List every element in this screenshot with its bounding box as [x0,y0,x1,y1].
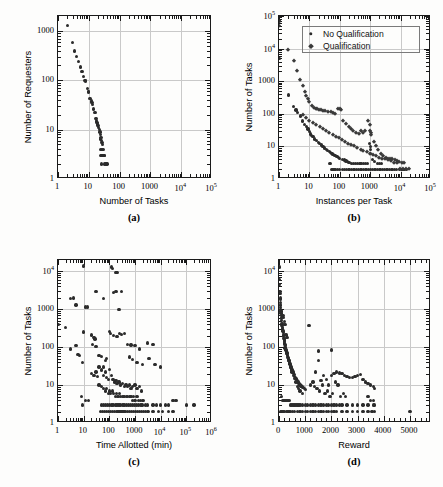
axis-tick [279,275,282,276]
axis-tick [426,405,429,406]
axis-tick [426,315,429,316]
axis-tick [421,260,422,263]
axis-tick [426,412,429,413]
axis-tick [347,418,348,421]
data-point [296,421,299,422]
data-point [307,324,310,327]
axis-tick [279,353,282,354]
axis-tick [289,260,290,263]
axis-tick [426,277,429,278]
data-point [351,403,354,406]
data-point [288,421,291,422]
axis-tick [373,260,374,263]
data-point [301,392,304,395]
axis-tick [426,329,429,330]
axis-tick [284,260,285,263]
data-point [280,421,283,422]
axis-tick [300,260,301,263]
data-point [282,316,285,319]
axis-tick [389,260,390,263]
data-point [336,383,339,386]
data-point [327,383,330,386]
axis-tick [426,389,429,390]
axis-tick [279,391,282,392]
data-point [288,399,291,402]
y-tick-label: 100 [262,341,275,351]
axis-tick [424,347,429,348]
axis-tick [331,260,332,263]
axis-tick [389,418,390,421]
axis-tick [326,260,327,263]
data-point [278,292,281,295]
data-point [278,278,281,281]
axis-tick [279,374,282,375]
axis-tick [426,273,429,274]
y-tick-label: 1 [271,417,275,427]
data-point [304,421,307,422]
axis-tick [415,260,416,263]
data-point [361,410,364,413]
data-point [317,359,320,362]
gridline-vertical [358,260,359,421]
x-axis-title-d: Reward [338,440,370,450]
axis-tick [426,394,429,395]
data-point [280,395,283,398]
axis-tick [279,416,280,421]
axis-tick [426,286,429,287]
data-point [351,410,354,413]
axis-tick [426,418,427,421]
data-point [351,421,354,422]
plot-area-d [278,259,430,422]
axis-tick [426,280,429,281]
data-point [339,395,342,398]
data-point [361,403,364,406]
data-point [326,389,329,392]
data-point [372,403,375,406]
axis-tick [279,387,282,388]
data-point [372,399,375,402]
axis-tick [426,260,427,263]
data-point [335,421,338,422]
axis-tick [342,260,343,263]
axis-tick [426,374,429,375]
axis-tick [321,260,322,263]
gridline-horizontal [279,347,429,348]
axis-tick [426,356,429,357]
axis-tick [358,418,359,421]
data-point [408,410,411,413]
y-tick-label: 1000 [258,303,275,313]
x-tick-label: 2000 [322,425,339,435]
data-point [366,395,369,398]
data-point [278,265,281,268]
data-point [322,374,325,377]
gridline-horizontal [279,271,429,272]
axis-tick [426,359,429,360]
data-point [344,395,347,398]
axis-tick [384,418,385,421]
axis-tick [405,260,406,263]
axis-tick [426,298,429,299]
axis-tick [331,418,332,421]
x-tick-label: 5000 [401,425,418,435]
axis-tick [358,260,359,263]
axis-tick [279,349,282,350]
data-point [279,421,282,422]
data-point [356,403,359,406]
axis-tick [279,389,282,390]
axis-tick [379,418,380,421]
axis-tick [279,385,284,386]
data-point [319,421,322,422]
axis-tick [405,418,406,421]
data-point [294,380,297,383]
axis-tick [305,260,306,263]
axis-tick [410,260,411,263]
data-point [321,383,324,386]
data-point [283,323,286,326]
data-point [340,403,343,406]
data-point [366,410,369,413]
data-point [311,380,314,383]
axis-tick [384,260,385,263]
axis-tick [279,359,282,360]
data-point [345,403,348,406]
axis-tick [337,260,338,263]
